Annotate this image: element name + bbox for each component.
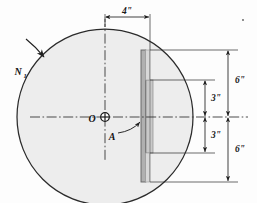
dimension-label-upper-6in: 6" — [235, 75, 245, 85]
center-label-O: O — [88, 113, 95, 124]
plate-lower-stub — [146, 153, 150, 182]
dimension-label-4in: 4" — [121, 6, 132, 16]
plate-flange-band — [146, 80, 154, 153]
corner-speck — [242, 19, 244, 21]
dimension-label-upper-3in: 3" — [210, 93, 221, 103]
center-axis-marker — [101, 113, 110, 122]
rotation-label-subscript: 1 — [23, 72, 26, 79]
rotation-arrow — [26, 39, 44, 57]
rotation-arrow-group — [26, 39, 44, 57]
diagram-canvas: O N 1 A 4" — [0, 0, 257, 203]
dimension-label-lower-6in: 6" — [235, 144, 245, 154]
plate-callout-label-A: A — [108, 131, 116, 142]
dimension-label-lower-3in: 3" — [210, 130, 221, 140]
plate-web-strip — [141, 50, 146, 182]
plate-upper-stub — [146, 50, 150, 80]
engineering-figure: O N 1 A 4" — [0, 0, 257, 203]
rotation-label-N: N — [13, 66, 22, 77]
